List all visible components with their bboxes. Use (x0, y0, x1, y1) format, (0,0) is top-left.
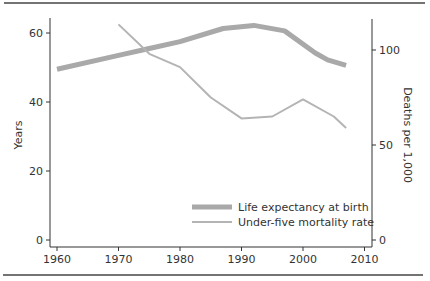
right-axis-title: Deaths per 1,000 (401, 87, 414, 183)
under-five-mortality-line (119, 24, 347, 128)
life-expectancy-line (57, 25, 346, 69)
left-y-ticks: 0204060 (29, 27, 50, 247)
dual-axis-line-chart: 0204060 050100 196019701980199020002010 … (0, 0, 430, 281)
legend-label-under-five-mortality: Under-five mortality rate (238, 216, 374, 229)
x-tick-label: 2000 (289, 253, 317, 266)
x-tick-label: 1960 (43, 253, 71, 266)
x-tick-label: 2010 (351, 253, 379, 266)
right-tick-label: 0 (379, 234, 386, 247)
x-tick-label: 1980 (166, 253, 194, 266)
left-axis-title: Years (12, 120, 25, 150)
left-tick-label: 40 (29, 96, 43, 109)
right-tick-label: 100 (379, 44, 400, 57)
legend-label-life-expectancy: Life expectancy at birth (238, 201, 369, 214)
right-tick-label: 50 (379, 139, 393, 152)
left-tick-label: 0 (36, 234, 43, 247)
left-tick-label: 20 (29, 165, 43, 178)
x-tick-label: 1970 (105, 253, 133, 266)
right-y-ticks: 050100 (372, 44, 400, 247)
x-ticks: 196019701980199020002010 (43, 247, 379, 266)
x-tick-label: 1990 (228, 253, 256, 266)
legend: Life expectancy at birth Under-five mort… (192, 201, 374, 229)
left-tick-label: 60 (29, 27, 43, 40)
